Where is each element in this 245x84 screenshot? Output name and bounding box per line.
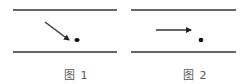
figure-1-arrow-icon bbox=[45, 22, 69, 40]
figure-1-dot bbox=[74, 38, 79, 42]
figure-1-caption: 图 1 bbox=[64, 66, 89, 82]
figure-2 bbox=[131, 10, 236, 52]
figure-1 bbox=[13, 10, 117, 52]
figure-2-dot bbox=[199, 38, 204, 43]
figure-2-caption: 图 2 bbox=[183, 66, 208, 82]
diagram-canvas bbox=[0, 0, 245, 84]
